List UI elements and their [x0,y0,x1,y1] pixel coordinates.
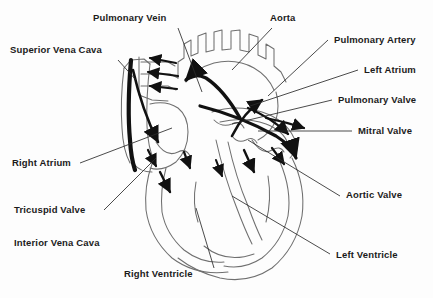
flow-arrow-rv-1 [160,172,170,192]
label-right-ventricle: Right Ventricle [124,269,193,279]
leader-left-ventricle [232,196,330,254]
flow-arrow-svc [133,70,158,142]
label-tricuspid-valve: Tricuspid Valve [14,205,85,215]
septum-inner [228,142,262,240]
pulmonary-vein-trunk [139,57,168,101]
right-ventricle-inner [162,168,225,262]
label-interior-vena-cava: Interior Vena Cava [14,238,100,248]
right-ventricle-wall [146,164,228,273]
heart-apex-fold [204,246,254,258]
left-ventricle-inner [224,162,289,267]
label-right-atrium: Right Atrium [12,158,71,168]
vena-cava-top-flare [124,59,150,68]
label-left-ventricle: Left Ventricle [336,250,398,260]
label-pulmonary-valve: Pulmonary Valve [338,95,416,105]
label-left-atrium: Left Atrium [364,65,416,75]
label-aorta: Aorta [270,13,296,23]
superior-vena-cava-wall-right [147,64,154,160]
leader-lines [80,28,358,268]
flow-arrow-pv-3 [150,86,177,89]
papillary-muscle-right [194,182,198,222]
left-atrium-inner [220,119,288,144]
flow-arrow-lv-1 [244,150,254,172]
label-superior-vena-cava: Superior Vena Cava [10,45,102,55]
papillary-muscle-left [266,176,270,222]
label-mitral-valve: Mitral Valve [358,126,412,136]
label-pulmonary-artery: Pulmonary Artery [334,35,416,45]
leader-aortic-valve [248,140,340,196]
label-aortic-valve: Aortic Valve [346,190,402,200]
label-pulmonary-vein: Pulmonary Vein [93,13,166,23]
leader-tricuspid-valve [104,158,156,210]
heart-anatomy-diagram: Pulmonary Vein Aorta Superior Vena Cava … [0,0,433,298]
blood-flow-arrows [133,58,304,192]
